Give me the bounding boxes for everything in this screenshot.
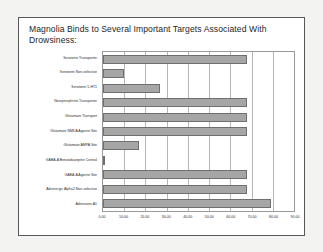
x-axis-tick-label: 70.00	[248, 215, 257, 219]
x-axis-tick-label: 20.00	[140, 215, 149, 219]
bar-rows	[103, 52, 294, 211]
y-axis-tick-label: GABA-A Agonist Site	[26, 168, 100, 183]
bar-row	[103, 182, 294, 196]
bar	[103, 170, 247, 179]
bar	[103, 98, 247, 107]
bar	[103, 84, 160, 93]
y-axis-tick-label: Norepinephrine Transporter	[26, 95, 100, 110]
bar	[103, 185, 247, 194]
y-axis-labels: Serotonin TransporterSerotonin Non-selec…	[26, 51, 100, 212]
bar-row	[103, 110, 294, 124]
bar-row	[103, 66, 294, 80]
plot-area	[102, 51, 295, 212]
bar-row	[103, 153, 294, 167]
y-axis-tick-label: Serotonin Transporter	[26, 51, 100, 66]
bar	[103, 113, 247, 122]
y-axis-tick-label: Glutamate NMDA Agonist Site	[26, 124, 100, 139]
bar-row	[103, 52, 294, 66]
x-axis-tick-label: 80.00	[269, 215, 278, 219]
y-axis-tick-label: Serotonin 5-HT1	[26, 80, 100, 95]
y-axis-tick-label: Adenosine A1	[26, 197, 100, 212]
slide-frame: Magnolia Binds to Several Important Targ…	[18, 17, 305, 236]
bar	[103, 55, 247, 64]
bar-row	[103, 197, 294, 211]
x-axis-labels: 0.0010.0020.0030.0040.0050.0060.0070.008…	[102, 215, 295, 227]
bar-row	[103, 81, 294, 95]
x-axis-tick-label: 90.00	[291, 215, 300, 219]
y-axis-tick-label: Adrenergic Alpha2 Non-selective	[26, 183, 100, 198]
x-axis-tick-label: 10.00	[119, 215, 128, 219]
x-axis-tick-label: 0.00	[99, 215, 106, 219]
bar-row	[103, 124, 294, 138]
bar	[103, 156, 105, 165]
bar	[103, 141, 139, 150]
x-axis-tick-label: 50.00	[205, 215, 214, 219]
bar	[103, 127, 247, 136]
bar-row	[103, 95, 294, 109]
screenshot-canvas: Magnolia Binds to Several Important Targ…	[0, 0, 323, 252]
bar	[103, 69, 124, 78]
x-axis-tick-label: 60.00	[226, 215, 235, 219]
y-axis-tick-label: Glutamate AMPA Site	[26, 139, 100, 154]
y-axis-tick-label: GABA-A Benzodiazepine Central	[26, 153, 100, 168]
x-axis-tick-label: 30.00	[162, 215, 171, 219]
bar-chart: Serotonin TransporterSerotonin Non-selec…	[26, 49, 299, 231]
page-title: Magnolia Binds to Several Important Targ…	[29, 24, 295, 46]
x-axis-tick-label: 40.00	[183, 215, 192, 219]
bar-row	[103, 168, 294, 182]
y-axis-tick-label: Serotonin Non-selective	[26, 66, 100, 81]
bar-row	[103, 139, 294, 153]
bar	[103, 199, 271, 208]
y-axis-tick-label: Glutamate Transport	[26, 110, 100, 125]
